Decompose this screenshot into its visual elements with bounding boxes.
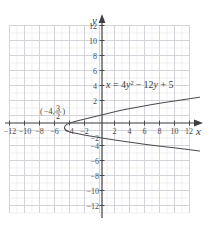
y-tick-label: 8 [93,52,97,61]
equation-equals: = [113,79,119,90]
vertex-label-open: ( [40,107,43,116]
y-tick-label: 6 [93,67,97,76]
equation-var-y2: y [152,79,158,90]
vertex-label-close: ) [63,107,66,116]
x-tick-label: 8 [158,127,162,136]
equation-lhs: x [105,79,111,90]
vertex-label-denominator: 2 [56,112,60,121]
y-tick-label: 4 [93,82,97,91]
equation-plus: + [160,79,166,90]
y-tick-label: 2 [93,97,97,106]
equation-minus: − [136,79,142,90]
y-tick-label: −12 [86,202,99,211]
x-tick-label: 6 [143,127,147,136]
x-tick-label: 4 [128,127,132,136]
figure-background [0,0,211,226]
x-tick-label: −10 [19,127,32,136]
y-tick-label: 10 [89,37,97,46]
x-tick-label: 10 [171,127,179,136]
y-tick-label: −4 [90,142,99,151]
x-tick-label: −8 [35,127,44,136]
x-tick-label: −12 [4,127,17,136]
x-tick-label: 2 [113,127,117,136]
vertex-label-x: −4, [44,107,55,116]
y-tick-label: −8 [90,172,99,181]
equation-annotation: x=4y2−12y+5 [105,79,174,90]
x-axis-label: x [195,125,201,137]
coordinate-plane: −12 −10 −8 −6 −4 −2 2 4 6 8 10 12 12 10 … [0,0,211,226]
equation-const: 5 [169,79,174,90]
y-axis-label: y [91,14,97,26]
graph-figure: −12 −10 −8 −6 −4 −2 2 4 6 8 10 12 12 10 … [0,0,211,226]
y-tick-label: −6 [90,157,99,166]
equation-exponent: 2 [131,79,134,86]
y-tick-label: −10 [86,187,99,196]
equation-coef-b: 12 [143,79,153,90]
x-tick-label: 12 [185,127,193,136]
x-tick-label: −6 [50,127,59,136]
